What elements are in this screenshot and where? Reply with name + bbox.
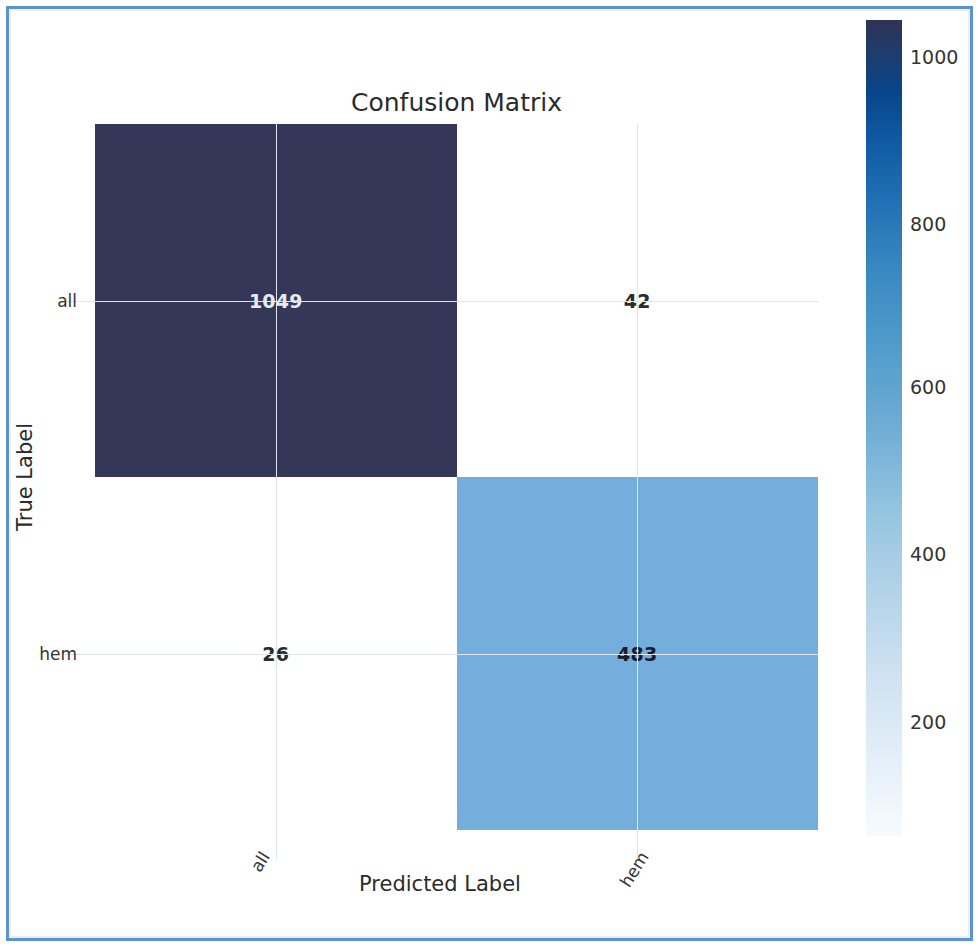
colorbar-tick-label: 200 bbox=[910, 711, 946, 733]
colorbar-tick-label: 600 bbox=[910, 376, 946, 398]
colorbar-gradient bbox=[866, 20, 902, 836]
colorbar-tick-label: 800 bbox=[910, 213, 946, 235]
confusion-matrix-figure: Confusion Matrix True Label Predicted La… bbox=[0, 0, 979, 947]
y-axis-label-host: True Label bbox=[40, 124, 80, 830]
y-tick-label-all: all bbox=[0, 291, 77, 311]
gridline-horizontal bbox=[95, 301, 818, 302]
gridline-vertical bbox=[637, 124, 638, 830]
y-tick-label-hem: hem bbox=[0, 644, 77, 664]
chart-title: Confusion Matrix bbox=[95, 88, 818, 117]
heatmap-axes: 1049 42 26 483 all hem all hem bbox=[95, 124, 818, 830]
colorbar: 1000 800 600 400 200 bbox=[866, 20, 902, 836]
colorbar-tick-label: 400 bbox=[910, 543, 946, 565]
x-tick-mark bbox=[276, 830, 277, 860]
gridline-horizontal bbox=[95, 654, 818, 655]
gridline-vertical bbox=[276, 124, 277, 830]
colorbar-tick-label: 1000 bbox=[910, 46, 958, 68]
y-axis-label: True Label bbox=[5, 124, 45, 830]
x-axis-label: Predicted Label bbox=[0, 872, 880, 896]
